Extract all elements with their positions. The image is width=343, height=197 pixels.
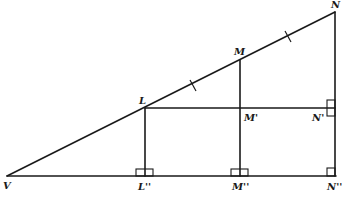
label-n-double-prime: N'' bbox=[326, 181, 342, 192]
label-m: M bbox=[233, 46, 246, 57]
label-v: V bbox=[3, 180, 12, 191]
label-l-double-prime: L'' bbox=[137, 181, 151, 192]
label-m-double-prime: M'' bbox=[231, 181, 249, 192]
right-angle-n2 bbox=[327, 168, 335, 176]
hypotenuse-vn bbox=[7, 12, 335, 176]
label-m-prime: M' bbox=[243, 112, 258, 123]
label-l: L bbox=[138, 95, 146, 106]
label-n-prime: N' bbox=[311, 112, 324, 123]
label-n: N bbox=[330, 0, 341, 10]
geometry-diagram: V L M N M' N' L'' M'' N'' bbox=[0, 0, 343, 197]
